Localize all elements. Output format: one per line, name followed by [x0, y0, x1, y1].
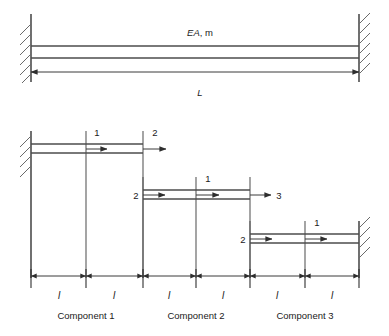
- component-1-node-label-2: 2: [152, 127, 157, 138]
- component-captions: Component 1 Component 2 Component 3: [57, 310, 333, 321]
- component-1-left-support-icon: [20, 131, 31, 278]
- engineering-figure: EA, m L: [0, 0, 389, 336]
- dimension-label-1: l: [58, 290, 61, 301]
- component-3-node-label-1: 1: [314, 217, 319, 228]
- component-1-group: 1 2: [20, 127, 166, 278]
- component-2-node-label-1: 1: [205, 173, 210, 184]
- overall-length-label: L: [197, 87, 202, 98]
- dimension-chain: l l l l l l: [31, 269, 359, 301]
- dimension-label-4: l: [222, 290, 225, 301]
- top-diagram: [20, 13, 370, 83]
- component-3-right-support-icon: [359, 217, 370, 278]
- top-right-support-icon: [359, 13, 370, 82]
- dimension-label-5: l: [276, 290, 279, 301]
- bar-stiffness-label-rest: , m: [200, 27, 213, 38]
- dimension-label-2: l: [113, 290, 116, 301]
- component-1-node-label-1: 1: [94, 127, 99, 138]
- top-bar-member: [31, 46, 359, 58]
- component-2-node-label-3: 3: [276, 190, 281, 201]
- component-2-node-label-2: 2: [133, 190, 138, 201]
- bar-stiffness-label: EA, m: [187, 27, 213, 38]
- component-3-caption: Component 3: [276, 310, 333, 321]
- figure-canvas: EA, m L: [0, 0, 389, 336]
- component-1-caption: Component 1: [57, 310, 114, 321]
- dimension-label-3: l: [168, 290, 171, 301]
- component-3-group: 2 1: [240, 217, 370, 278]
- component-2-caption: Component 2: [167, 310, 224, 321]
- component-2-group: 2 1 3: [133, 173, 281, 278]
- bar-stiffness-label-em: EA: [187, 27, 200, 38]
- dimension-label-6: l: [331, 290, 334, 301]
- top-left-support-icon: [20, 14, 31, 83]
- component-3-node-label-2: 2: [240, 234, 245, 245]
